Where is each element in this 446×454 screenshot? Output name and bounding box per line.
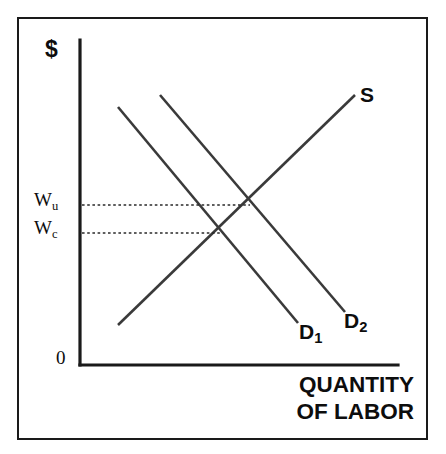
wage-union-label: Wu (34, 190, 58, 209)
demand-curve-2-label: D2 (344, 310, 367, 331)
demand-1-subscript: 1 (314, 330, 322, 346)
wage-competitive-label: Wc (34, 218, 58, 237)
demand-curve-2 (160, 95, 345, 312)
origin-label: 0 (56, 348, 66, 367)
wage-competitive-symbol: W (34, 217, 52, 238)
demand-2-symbol: D (344, 309, 359, 332)
demand-curve-1 (118, 107, 298, 323)
wage-competitive-subscript: c (52, 227, 58, 241)
demand-1-symbol: D (299, 320, 314, 343)
x-axis-title: QUANTITY OF LABOR (297, 372, 415, 425)
y-axis-currency-label: $ (45, 38, 57, 61)
supply-curve-label: S (360, 84, 374, 105)
demand-2-subscript: 2 (359, 319, 367, 335)
demand-curve-1-label: D1 (299, 321, 322, 342)
supply-curve (118, 95, 355, 325)
wage-union-symbol: W (34, 189, 52, 210)
wage-union-subscript: u (52, 199, 58, 213)
figure-root: $ 0 Wu Wc S D1 D2 QUANTITY OF LABOR (0, 0, 446, 454)
x-axis-title-line-1: QUANTITY (297, 372, 415, 399)
x-axis-title-line-2: OF LABOR (297, 399, 415, 426)
